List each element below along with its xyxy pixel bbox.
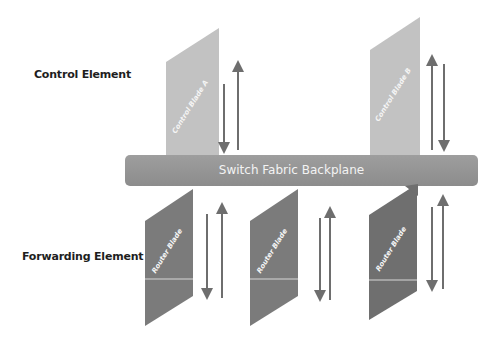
router-blade-1-arrows	[207, 208, 222, 298]
router-blade-3: Router Blade	[369, 184, 417, 320]
router-blade-2: Router Blade	[250, 189, 298, 326]
router-blade-2-arrows	[320, 212, 330, 300]
control-blade-a-arrows	[224, 66, 238, 150]
switch-fabric-backplane: Switch Fabric Backplane	[125, 155, 478, 186]
backplane-label: Switch Fabric Backplane	[125, 155, 478, 186]
router-blade-1: Router Blade	[145, 189, 193, 326]
control-blade-b: Control Blade B	[370, 17, 420, 155]
router-blade-3-arrows	[432, 200, 443, 289]
diagram-canvas: Control Element Forwarding Element Contr…	[0, 0, 500, 351]
control-blade-b-arrows	[432, 60, 444, 150]
control-blade-a: Control Blade A	[166, 28, 219, 155]
